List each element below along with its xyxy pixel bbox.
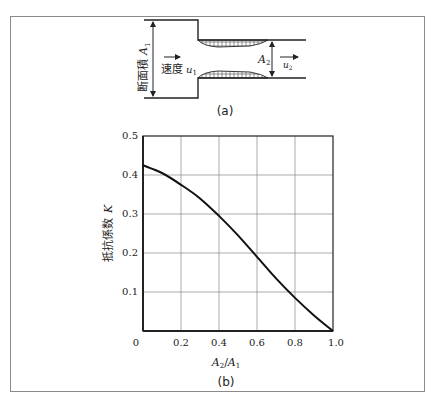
chart-grid	[143, 136, 333, 331]
svg-text:1.0: 1.0	[328, 337, 344, 348]
figure-canvas: 断面積A1 速度u1 A2 u2 (a) 0.5	[0, 0, 434, 406]
x-tick-labels: 0 0.2 0.4 0.6 0.8 1.0	[133, 337, 344, 348]
resistance-chart: 0.5 0.4 0.3 0.2 0.1 0 0.2 0.4 0.6 0.8 1.…	[101, 130, 344, 389]
caption-a: (a)	[217, 104, 234, 118]
pipe-lower-wall	[144, 78, 306, 98]
plot-frame	[143, 136, 333, 331]
u2-label: u2	[283, 60, 293, 71]
y-tick-labels: 0.5 0.4 0.3 0.2 0.1	[122, 130, 138, 297]
svg-text:0.3: 0.3	[122, 208, 138, 219]
svg-text:0: 0	[133, 337, 139, 348]
caption-b: (b)	[218, 375, 235, 389]
svg-text:0.8: 0.8	[287, 337, 303, 348]
svg-text:0.2: 0.2	[122, 247, 138, 258]
x-axis-label: A2/A1	[211, 356, 241, 370]
svg-text:0.4: 0.4	[211, 337, 227, 348]
svg-text:断面積A1: 断面積A1	[136, 43, 152, 92]
svg-text:0.2: 0.2	[173, 337, 189, 348]
y-axis-label: 抵抗係数K	[101, 204, 115, 262]
vena-contracta-bottom	[198, 71, 268, 78]
area1-label: 断面積A1	[136, 43, 152, 92]
vena-contracta-top	[198, 40, 268, 47]
svg-text:0.6: 0.6	[249, 337, 265, 348]
svg-text:0.4: 0.4	[122, 169, 138, 180]
k-curve-line	[143, 165, 333, 331]
pipe-upper-wall	[144, 20, 306, 40]
velocity-label: 速度u1	[161, 62, 197, 77]
svg-text:抵抗係数K: 抵抗係数K	[101, 204, 115, 262]
svg-text:0.5: 0.5	[122, 130, 138, 141]
area2-label: A2	[257, 53, 270, 67]
pipe-contraction-diagram: 断面積A1 速度u1 A2 u2 (a)	[136, 20, 306, 118]
svg-text:0.1: 0.1	[122, 286, 138, 297]
